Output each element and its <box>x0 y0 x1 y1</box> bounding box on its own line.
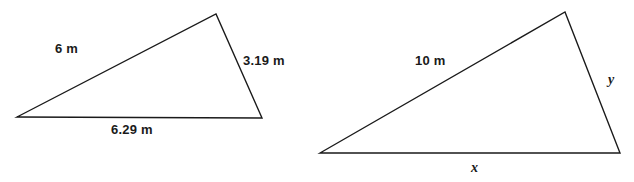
right-triangle-hypotenuse-label: 10 m <box>415 54 445 67</box>
right-triangle-right-side-label: y <box>608 73 614 87</box>
left-triangle-shape <box>17 14 262 118</box>
similar-triangles-figure: 6 m 3.19 m 6.29 m 10 m y x <box>0 0 634 182</box>
triangles-svg <box>0 0 634 182</box>
right-triangle-base-label: x <box>471 161 478 175</box>
left-triangle-right-side-label: 3.19 m <box>243 54 285 67</box>
right-triangle-shape <box>320 12 620 153</box>
left-triangle-base-label: 6.29 m <box>111 123 153 136</box>
left-triangle-hypotenuse-label: 6 m <box>55 42 78 55</box>
